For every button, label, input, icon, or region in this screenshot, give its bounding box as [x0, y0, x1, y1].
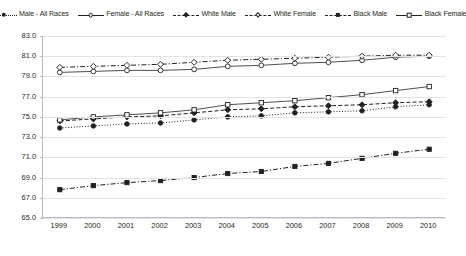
legend-symbol-filled-diamond-icon	[173, 11, 199, 20]
y-axis-tick-mark	[40, 56, 43, 57]
y-axis-tick-label: 79.0	[22, 73, 36, 80]
gridline	[43, 218, 446, 219]
gridline	[43, 137, 446, 138]
data-point	[91, 184, 95, 188]
data-point	[259, 101, 263, 105]
data-point	[259, 169, 263, 173]
gridline	[43, 76, 446, 77]
data-point	[293, 99, 297, 103]
data-point	[226, 103, 230, 107]
legend-symbol-filled-square-icon	[325, 11, 351, 20]
legend-item[interactable]: Black Male	[325, 11, 387, 20]
legend-item[interactable]: White Male	[173, 11, 236, 20]
x-axis-tick-label: 2000	[84, 222, 100, 229]
y-axis-tick-mark	[40, 157, 43, 158]
gridline	[43, 97, 446, 98]
x-axis-tick-label: 2009	[386, 222, 402, 229]
x-axis: 1999200020012002200320042005200620072008…	[42, 222, 445, 242]
data-point	[326, 161, 330, 165]
x-axis-tick-label: 2002	[151, 222, 167, 229]
data-point	[293, 111, 298, 116]
x-axis-tick-label: 2007	[319, 222, 335, 229]
legend-item[interactable]: Female - All Races	[78, 11, 164, 20]
gridline	[43, 117, 446, 118]
x-axis-tick-label: 2001	[118, 222, 134, 229]
data-point	[191, 59, 197, 65]
y-axis: 83.081.079.077.075.073.071.069.067.065.0	[0, 30, 40, 256]
data-point	[90, 63, 96, 69]
data-point	[394, 151, 398, 155]
y-axis-tick-mark	[40, 36, 43, 37]
data-point	[393, 100, 399, 106]
data-point	[393, 88, 397, 92]
legend-label: Female - All Races	[106, 11, 164, 18]
data-point	[226, 171, 230, 175]
data-point	[293, 164, 297, 168]
legend-item[interactable]: White Female	[245, 11, 316, 20]
y-axis-tick-label: 71.0	[22, 154, 36, 161]
y-axis-tick-label: 67.0	[22, 194, 36, 201]
legend-item[interactable]: Male - All Races	[0, 11, 69, 20]
data-point	[359, 102, 365, 108]
data-point	[192, 108, 196, 112]
series-line	[60, 149, 429, 189]
x-axis-tick-label: 2004	[218, 222, 234, 229]
series-white-female	[57, 52, 432, 70]
data-point	[58, 118, 62, 122]
y-axis-tick-mark	[40, 137, 43, 138]
data-point	[225, 57, 231, 63]
legend-label: Black Male	[353, 11, 387, 18]
data-point	[325, 103, 331, 109]
y-axis-tick-mark	[40, 178, 43, 179]
y-axis-tick-label: 65.0	[22, 214, 36, 221]
data-point	[58, 188, 62, 192]
data-point	[225, 107, 231, 113]
data-point	[192, 118, 197, 123]
y-axis-tick-mark	[40, 97, 43, 98]
chart-legend: Male - All RacesFemale - All RacesWhite …	[0, 8, 457, 22]
data-point	[360, 109, 365, 114]
y-axis-tick-label: 81.0	[22, 53, 36, 60]
series-line	[60, 102, 429, 121]
gridline	[43, 157, 446, 158]
x-axis-tick-label: 2010	[420, 222, 436, 229]
legend-symbol-open-diamond-icon	[245, 11, 271, 20]
data-point	[158, 121, 163, 126]
data-point	[124, 62, 130, 68]
legend-label: White Female	[273, 11, 316, 18]
legend-item[interactable]: Black Female	[396, 11, 466, 20]
data-point	[158, 68, 163, 73]
data-point	[125, 181, 129, 185]
y-axis-tick-label: 73.0	[22, 133, 36, 140]
legend-symbol-filled-circle-icon	[0, 11, 17, 20]
series-line	[60, 56, 429, 72]
data-point	[326, 110, 331, 115]
data-point	[427, 147, 431, 151]
gridline	[43, 178, 446, 179]
gridline	[43, 56, 446, 57]
x-axis-tick-label: 2003	[185, 222, 201, 229]
data-point	[158, 178, 162, 182]
series-line	[60, 87, 429, 120]
x-axis-tick-label: 2005	[252, 222, 268, 229]
x-axis-tick-label: 2006	[286, 222, 302, 229]
data-point	[225, 64, 230, 69]
y-axis-tick-label: 75.0	[22, 113, 36, 120]
plot-area	[42, 36, 445, 218]
gridline	[43, 198, 446, 199]
gridline	[43, 36, 446, 37]
data-point	[125, 122, 130, 127]
y-axis-tick-mark	[40, 218, 43, 219]
data-point	[57, 126, 62, 131]
data-point	[258, 106, 264, 112]
data-point	[192, 67, 197, 72]
series-white-male	[57, 99, 432, 124]
legend-label: Black Female	[425, 11, 466, 18]
series-black-male	[58, 147, 432, 192]
y-axis-tick-mark	[40, 76, 43, 77]
legend-symbol-open-circle-icon	[78, 11, 104, 20]
legend-symbol-open-square-icon	[396, 11, 422, 20]
y-axis-tick-label: 69.0	[22, 174, 36, 181]
y-axis-tick-label: 83.0	[22, 32, 36, 39]
